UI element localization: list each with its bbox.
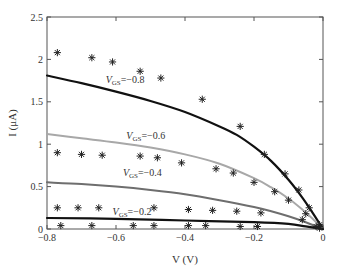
asterisk-marker-icon: [261, 151, 268, 158]
asterisk-marker-icon: [137, 152, 144, 159]
y-tick-label: 0.5: [31, 181, 44, 192]
asterisk-marker-icon: [130, 222, 137, 229]
vgs-annotation: VGS=−0.4: [123, 167, 162, 180]
asterisk-marker-icon: [78, 151, 85, 158]
asterisk-marker-icon: [254, 223, 261, 230]
asterisk-marker-icon: [99, 152, 106, 159]
asterisk-marker-icon: [202, 222, 209, 229]
model-curve: [47, 76, 323, 229]
y-tick-label: 0: [38, 224, 43, 235]
asterisk-marker-icon: [306, 204, 313, 211]
asterisk-marker-icon: [185, 206, 192, 213]
asterisk-marker-icon: [74, 204, 81, 211]
y-tick-label: 1.5: [31, 96, 44, 107]
plot-border: [47, 17, 323, 229]
asterisk-marker-icon: [209, 207, 216, 214]
asterisk-marker-icon: [295, 186, 302, 193]
asterisk-marker-icon: [88, 222, 95, 229]
asterisk-marker-icon: [281, 170, 288, 177]
y-tick-label: 2: [38, 54, 43, 65]
asterisk-marker-icon: [54, 204, 61, 211]
asterisk-marker-icon: [109, 58, 116, 65]
x-tick-label: −0.2: [245, 232, 263, 243]
x-axis-label: V (V): [172, 253, 198, 266]
asterisk-marker-icon: [299, 216, 306, 223]
asterisk-marker-icon: [212, 165, 219, 172]
asterisk-marker-icon: [150, 204, 157, 211]
asterisk-marker-icon: [230, 169, 237, 176]
vgs-annotation: VGS=−0.8: [106, 74, 145, 87]
asterisk-marker-icon: [302, 210, 309, 217]
asterisk-marker-icon: [285, 197, 292, 204]
plot-frame: [47, 17, 323, 229]
asterisk-marker-icon: [185, 222, 192, 229]
x-tick-label: −0.6: [107, 232, 125, 243]
asterisk-marker-icon: [257, 209, 264, 216]
asterisk-marker-icon: [54, 149, 61, 156]
y-tick-label: 2.5: [31, 12, 44, 23]
asterisk-marker-icon: [154, 154, 161, 161]
model-curves: [47, 76, 323, 229]
asterisk-marker-icon: [150, 222, 157, 229]
asterisk-marker-icon: [178, 159, 185, 166]
model-curve: [47, 182, 323, 229]
y-axis-label: I (μA): [6, 109, 19, 137]
asterisk-marker-icon: [271, 188, 278, 195]
asterisk-marker-icon: [95, 204, 102, 211]
asterisk-marker-icon: [88, 54, 95, 61]
asterisk-marker-icon: [157, 74, 164, 81]
vgs-annotation: VGS=−0.2: [113, 206, 152, 219]
vgs-annotation: VGS=−0.6: [126, 130, 165, 143]
asterisk-marker-icon: [237, 123, 244, 130]
asterisk-marker-icon: [316, 225, 323, 232]
asterisk-marker-icon: [54, 49, 61, 56]
asterisk-marker-icon: [199, 96, 206, 103]
iv-characteristics-chart: −0.8−0.6−0.4−0.2000.511.522.5 VGS=−0.8VG…: [0, 0, 337, 271]
x-tick-label: −0.4: [176, 232, 194, 243]
asterisk-marker-icon: [250, 179, 257, 186]
y-tick-label: 1: [38, 139, 43, 150]
asterisk-marker-icon: [237, 223, 244, 230]
asterisk-marker-icon: [57, 222, 64, 229]
x-tick-label: 0: [321, 232, 326, 243]
asterisk-marker-icon: [233, 208, 240, 215]
